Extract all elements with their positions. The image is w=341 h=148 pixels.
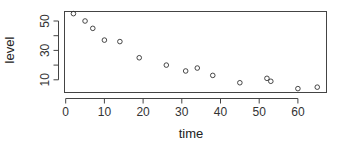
plot-box	[65, 12, 327, 93]
data-point	[269, 79, 274, 84]
data-point	[90, 26, 95, 31]
x-tick-label: 30	[175, 105, 189, 119]
x-axis: 0102030405060	[62, 99, 305, 120]
x-tick-label: 0	[62, 105, 69, 119]
data-point	[195, 66, 200, 71]
x-tick-label: 60	[291, 105, 305, 119]
data-points	[71, 11, 319, 91]
data-point	[164, 63, 169, 68]
x-axis-title: time	[179, 126, 204, 141]
data-point	[296, 86, 301, 91]
x-tick-label: 20	[136, 105, 150, 119]
data-point	[210, 73, 215, 78]
data-point	[183, 69, 188, 74]
scatter-plot: 0102030405060 103050 time level	[0, 0, 341, 148]
data-point	[83, 19, 88, 24]
data-point	[71, 11, 76, 16]
x-tick-label: 10	[98, 105, 112, 119]
y-tick-label: 10	[38, 73, 52, 87]
y-tick-label: 30	[38, 43, 52, 57]
y-tick-label: 50	[38, 14, 52, 28]
data-point	[118, 39, 123, 44]
x-tick-label: 50	[253, 105, 267, 119]
x-tick-label: 40	[214, 105, 228, 119]
data-point	[102, 38, 107, 43]
data-point	[315, 85, 320, 90]
data-point	[238, 80, 243, 85]
y-axis-title: level	[2, 37, 17, 64]
data-point	[137, 55, 142, 60]
y-axis: 103050	[38, 14, 59, 86]
